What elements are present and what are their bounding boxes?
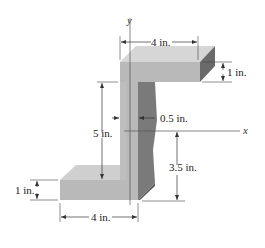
top-flange-top-face: [120, 46, 215, 62]
x-to-bottom-label: 3.5 in.: [169, 161, 197, 173]
x-axis-label: x: [242, 124, 248, 136]
bottom-thickness-label: 1 in.: [15, 184, 35, 196]
dim-web-height: 5 in.: [93, 82, 118, 179]
web-thickness-label: 0.5 in.: [160, 112, 188, 124]
z-section-figure: y x 4 in. 1 in. 0.5 in. 5 in. 3.5 in.: [0, 0, 265, 248]
z-section-body: [60, 46, 215, 200]
top-width-label: 4 in.: [151, 36, 171, 48]
y-axis-label: y: [126, 14, 132, 26]
top-thickness-label: 1 in.: [227, 66, 247, 78]
bottom-flange-top-face: [60, 165, 120, 180]
web-height-label: 5 in.: [93, 127, 113, 139]
dim-bottom-flange-width: 4 in.: [60, 203, 138, 223]
web-side-face: [138, 82, 157, 200]
bottom-width-label: 4 in.: [91, 211, 111, 223]
dim-bottom-flange-thickness: 1 in.: [15, 180, 58, 200]
